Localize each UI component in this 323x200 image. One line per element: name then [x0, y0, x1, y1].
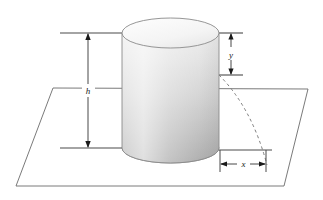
x-label: x — [241, 159, 246, 169]
h-label: h — [86, 86, 91, 96]
cylinder-top-face — [122, 18, 219, 48]
y-label: y — [228, 50, 233, 60]
y-arrowhead-bottom — [228, 69, 233, 76]
h-arrowhead-top — [85, 33, 90, 40]
cylinder-body-sheen — [122, 33, 219, 163]
x-arrowhead-left — [220, 161, 227, 166]
cylinder — [122, 18, 219, 163]
figure-container: h y x — [0, 0, 323, 200]
h-arrowhead-bottom — [85, 141, 90, 148]
dimension-h: h — [82, 33, 95, 148]
x-arrowhead-right — [259, 161, 266, 166]
y-arrowhead-top — [228, 33, 233, 40]
dimension-y: y — [225, 33, 238, 75]
cylinder-on-plane-diagram: h y x — [0, 0, 323, 200]
